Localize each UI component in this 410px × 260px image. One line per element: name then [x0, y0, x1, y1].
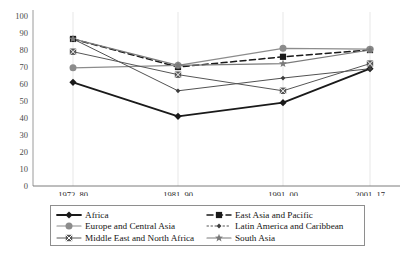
data-point-2-2 [280, 45, 287, 52]
y-tick-label: 10 [20, 164, 29, 174]
legend-label-4: Middle East and North Africa [85, 233, 194, 243]
legend-swatch-small-diamond-icon [206, 221, 232, 231]
chart-legend: AfricaEast Asia and PacificEurope and Ce… [50, 205, 365, 246]
plot-area: 0102030405060708090100 1972–801981–90199… [0, 0, 410, 196]
legend-marker-small-diamond-icon [217, 224, 222, 229]
gridlines [73, 12, 370, 186]
data-point-4-1 [175, 71, 181, 77]
series-line-1 [73, 39, 370, 67]
series-lines [73, 39, 370, 116]
legend-swatch-x-box-icon [56, 233, 82, 243]
data-point-4-2 [280, 88, 286, 94]
legend-label-5: South Asia [235, 233, 275, 243]
chart-figure: 0102030405060708090100 1972–801981–90199… [0, 0, 410, 260]
legend-item-5[interactable]: South Asia [206, 233, 359, 243]
bottom-caption [4, 249, 406, 258]
y-tick-label: 20 [20, 147, 29, 157]
axes [33, 10, 400, 186]
legend-swatch-circle-icon [56, 221, 82, 231]
data-point-0-0 [69, 79, 76, 86]
y-tick-label: 60 [20, 79, 29, 89]
legend-label-2: Europe and Central Asia [85, 221, 175, 231]
legend-item-4[interactable]: Middle East and North Africa [56, 233, 206, 243]
data-point-4-3 [367, 60, 373, 66]
x-tick-label: 2001–17 [355, 190, 385, 196]
data-point-3-2 [281, 76, 286, 81]
y-tick-label: 30 [20, 130, 29, 140]
legend-marker-circle-icon [66, 223, 73, 230]
x-tick-label: 1981–90 [163, 190, 193, 196]
legend-marker-star-icon [215, 234, 223, 242]
y-tick-label: 100 [15, 11, 28, 21]
legend-swatch-square-icon [206, 210, 232, 220]
y-tick-label: 50 [20, 96, 29, 106]
legend-item-0[interactable]: Africa [56, 210, 206, 220]
legend-marker-diamond-icon [65, 211, 72, 218]
y-tick-label: 70 [20, 62, 29, 72]
data-point-1-2 [280, 54, 286, 60]
legend-marker-square-icon [216, 212, 222, 218]
legend-label-1: East Asia and Pacific [235, 210, 313, 220]
y-tick-label: 0 [24, 181, 28, 191]
x-tick-label: 1972–80 [58, 190, 88, 196]
legend-label-3: Latin America and Caribbean [235, 221, 343, 231]
line-chart-svg: 0102030405060708090100 1972–801981–90199… [0, 0, 410, 196]
legend-label-0: Africa [85, 210, 108, 220]
y-tick-label: 40 [20, 113, 29, 123]
legend-swatch-diamond-icon [56, 210, 82, 220]
data-point-0-1 [174, 113, 181, 120]
data-point-0-2 [279, 99, 286, 106]
data-point-4-0 [70, 49, 76, 55]
series-line-0 [73, 69, 370, 117]
legend-marker-x-box-icon [66, 235, 72, 241]
x-axis-ticks: 1972–801981–901991–002001–17 [58, 190, 385, 196]
x-tick-label: 1991–00 [268, 190, 298, 196]
y-axis-ticks: 0102030405060708090100 [15, 11, 28, 191]
legend-item-2[interactable]: Europe and Central Asia [56, 221, 206, 231]
y-tick-label: 80 [20, 45, 29, 55]
data-point-3-1 [176, 88, 181, 93]
series-markers [69, 35, 374, 120]
y-tick-label: 90 [20, 28, 29, 38]
data-point-2-0 [70, 64, 77, 71]
legend-swatch-star-icon [206, 233, 232, 243]
legend-item-3[interactable]: Latin America and Caribbean [206, 221, 359, 231]
legend-item-1[interactable]: East Asia and Pacific [206, 210, 359, 220]
legend-grid: AfricaEast Asia and PacificEurope and Ce… [56, 209, 359, 244]
